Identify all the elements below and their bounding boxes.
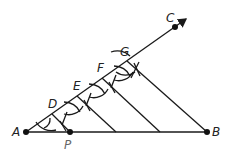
label-p: P bbox=[64, 138, 72, 152]
point-p bbox=[67, 129, 73, 135]
arc-e-cross bbox=[86, 93, 91, 106]
label-g: G bbox=[120, 45, 129, 59]
label-d: D bbox=[48, 97, 57, 111]
label-c: C bbox=[166, 11, 175, 25]
construction-diagram: A B C D E F G P bbox=[0, 0, 226, 157]
point-b bbox=[204, 129, 210, 135]
arc-e-lower bbox=[89, 89, 108, 98]
ray-ac bbox=[26, 19, 186, 132]
point-a bbox=[23, 129, 29, 135]
parallel-line-e bbox=[77, 96, 116, 132]
label-b: B bbox=[212, 125, 220, 139]
label-f: F bbox=[97, 61, 105, 75]
arc-a-small bbox=[44, 118, 50, 128]
parallel-line-g bbox=[127, 61, 207, 132]
label-a: A bbox=[11, 125, 20, 139]
arc-f-cross bbox=[111, 75, 116, 88]
label-e: E bbox=[73, 79, 81, 93]
